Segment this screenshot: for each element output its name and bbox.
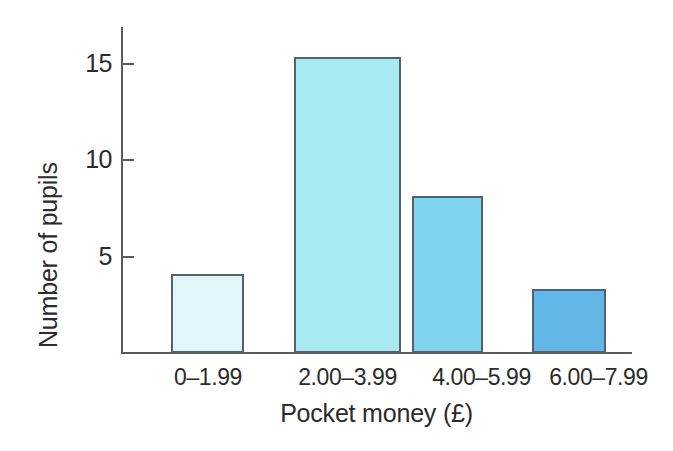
- y-tick-label-5-wrap: 5: [62, 244, 112, 269]
- y-tick-label-15-wrap: 15: [62, 51, 112, 76]
- y-tick-mark-10: [123, 159, 134, 161]
- y-tick-label-10-wrap: 10: [62, 147, 112, 172]
- x-category-label-1: 2.00–3.99: [277, 362, 418, 392]
- y-tick-label-10: 10: [72, 147, 112, 172]
- bar-3: [532, 289, 606, 353]
- y-tick-label-15: 15: [72, 51, 112, 76]
- y-tick-mark-5: [123, 256, 134, 258]
- x-axis-title: Pocket money (£): [121, 398, 632, 428]
- y-axis-line: [121, 27, 123, 354]
- y-tick-label-5: 5: [72, 244, 112, 269]
- bar-0: [171, 274, 244, 353]
- x-category-label-3: 6.00–7.99: [528, 362, 669, 392]
- y-tick-mark-15: [123, 63, 134, 65]
- bar-1: [294, 57, 401, 353]
- x-category-label-0: 0–1.99: [151, 362, 265, 392]
- bar-chart: Number of pupils 15 10 5 0–1.99 2.00–3.9…: [0, 0, 673, 451]
- bar-2: [412, 196, 483, 353]
